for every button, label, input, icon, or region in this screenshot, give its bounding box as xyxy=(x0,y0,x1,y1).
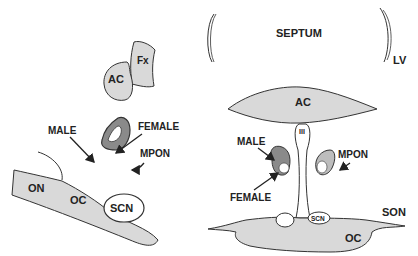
mpon-female-core-right xyxy=(279,163,289,173)
mpon-label-right: MPON xyxy=(338,149,368,160)
mpon-arrow-right xyxy=(340,163,350,170)
septum-label: SEPTUM xyxy=(276,27,322,39)
ac-label-right: AC xyxy=(295,96,311,108)
brain-section-diagram: AC Fx MALE FEMALE MPON ON OC SCN SEPTUM … xyxy=(0,0,418,256)
unlabeled-nucleus xyxy=(276,213,294,227)
third-ventricle-label: III xyxy=(299,128,305,135)
left-panel: AC Fx MALE FEMALE MPON ON OC SCN xyxy=(12,41,179,245)
oc-label-left: OC xyxy=(70,194,87,206)
male-label-left: MALE xyxy=(48,125,77,136)
male-label-right: MALE xyxy=(237,136,266,147)
third-ventricle xyxy=(295,124,310,218)
mpon-label-left: MPON xyxy=(140,148,170,159)
scn-label-right: SCN xyxy=(311,215,325,222)
optic-chiasm-right xyxy=(208,217,405,252)
female-label-right: FEMALE xyxy=(230,192,271,203)
female-arrow-right xyxy=(254,173,278,190)
on-label: ON xyxy=(28,182,45,194)
lateral-ventricle-left-inner xyxy=(210,14,216,62)
lv-label: LV xyxy=(393,54,407,66)
scn-label-left: SCN xyxy=(110,202,133,214)
male-arrow-left xyxy=(70,137,94,162)
oc-label-right: OC xyxy=(345,232,362,244)
female-label-left: FEMALE xyxy=(138,121,179,132)
mpon-right-core xyxy=(317,161,327,173)
right-panel: SEPTUM LV AC III MALE FEMALE MPON OC SCN… xyxy=(208,8,407,252)
fx-label: Fx xyxy=(137,55,149,66)
ac-label: AC xyxy=(108,73,124,85)
son-label: SON xyxy=(382,206,406,218)
mpon-arrow-left xyxy=(132,163,144,170)
